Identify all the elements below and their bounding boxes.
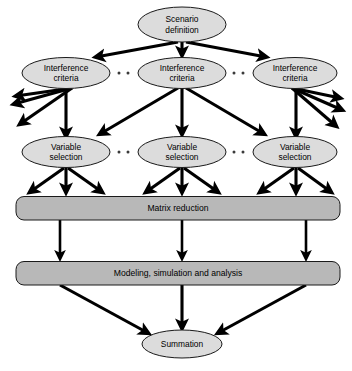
arrow-interference-middle-to-variable-left [100,88,178,134]
interference-criteria-left-label-line1: Interference [44,63,89,73]
summation-label: Summation [161,339,204,349]
node-variable-selection-right: Variable selection [253,137,337,168]
arrow-modeling-to-summation-left [60,285,148,333]
node-variable-selection-middle: Variable selection [138,137,226,168]
arrow-interference-right-out-2 [292,88,342,110]
arrow-variable-middle-to-matrix-1 [146,168,180,192]
ellipsis-dot [242,72,245,75]
variable-selection-middle-label-line2: selection [165,152,198,162]
arrow-variable-left-to-matrix-1 [30,168,64,192]
ellipsis-interference-gap-right [233,72,245,75]
scenario-definition-label-line1: Scenario [165,14,198,24]
arrow-interference-middle-to-variable-right [186,88,264,134]
diagram-canvas: Scenario definition Interference criteri… [0,0,352,371]
ellipsis-dot [118,151,121,154]
interference-criteria-right-label-line1: Interference [273,63,318,73]
arrow-variable-left-to-matrix-3 [68,168,102,192]
arrow-scenario-to-interference-right [186,42,266,57]
ellipsis-dot [118,72,121,75]
ellipsis-dot [242,151,245,154]
variable-selection-middle-label-line1: Variable [167,142,197,152]
arrow-modeling-to-summation-right [218,285,306,333]
interference-criteria-middle-label-line2: criteria [169,73,194,83]
arrow-variable-middle-to-matrix-3 [184,168,218,192]
ellipsis-variable-gap-right [233,151,245,154]
variable-selection-left-label-line2: selection [49,152,82,162]
ellipsis-dot [233,72,236,75]
interference-criteria-middle-label-line1: Interference [160,63,205,73]
flow-diagram: Scenario definition Interference criteri… [0,0,352,371]
ellipsis-interference-gap-left [118,72,130,75]
node-scenario-definition: Scenario definition [138,7,226,42]
ellipsis-variable-gap-left [118,151,130,154]
node-interference-criteria-middle: Interference criteria [138,58,226,89]
node-interference-criteria-left: Interference criteria [22,58,110,89]
interference-criteria-left-label-line2: criteria [53,73,78,83]
matrix-reduction-label: Matrix reduction [147,203,208,213]
variable-selection-right-label-line1: Variable [280,142,310,152]
ellipsis-dot [233,151,236,154]
variable-selection-right-label-line2: selection [278,152,311,162]
ellipsis-dot [127,72,130,75]
node-interference-criteria-right: Interference criteria [253,58,337,89]
ellipsis-dot [127,151,130,154]
arrow-variable-right-to-matrix-1 [260,168,294,192]
modeling-simulation-analysis-label: Modeling, simulation and analysis [114,268,243,278]
arrow-scenario-to-interference-left [96,42,178,57]
interference-criteria-right-label-line2: criteria [282,73,307,83]
arrow-variable-right-to-matrix-3 [298,168,331,192]
scenario-definition-label-line2: definition [165,25,199,35]
node-matrix-reduction: Matrix reduction [16,197,340,221]
node-summation: Summation [142,330,222,358]
node-variable-selection-left: Variable selection [22,137,110,168]
variable-selection-left-label-line1: Variable [51,142,81,152]
node-modeling-simulation-analysis: Modeling, simulation and analysis [16,262,340,286]
